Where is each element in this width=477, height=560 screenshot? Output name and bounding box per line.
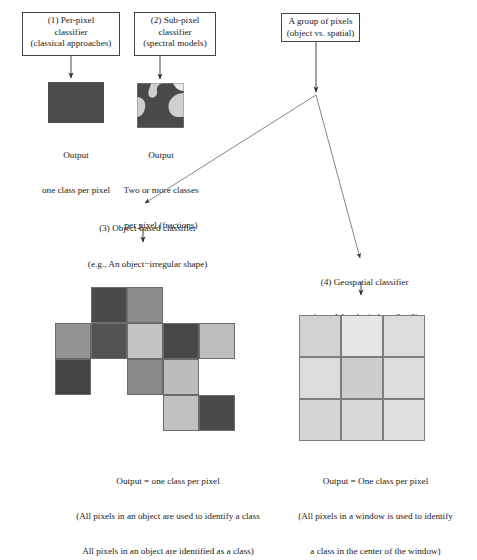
object-grid-cell [91, 323, 127, 359]
node-object-based-label: (3) Object-based classifier [99, 223, 196, 233]
window-grid-cell [383, 357, 425, 399]
node-group-of-pixels[interactable]: A group of pixels (object vs. spatial) [281, 13, 360, 42]
node-geospatial-classifier[interactable]: (4) Geospatial classifier [296, 265, 424, 300]
node-per-pixel-classifier[interactable]: (1) Per-pixel classifier (classical appr… [22, 12, 120, 56]
object-grid-cell [91, 287, 127, 323]
window-grid-cell [299, 399, 341, 441]
object-grid-cell [55, 359, 91, 395]
node-sub-pixel-line1: (2) Sub-pixel [138, 15, 212, 27]
object-grid-cell [55, 323, 91, 359]
window-grid-cell [383, 315, 425, 357]
object-grid-cell [199, 323, 235, 359]
bottom-caption-object: Output = one class per pixel (All pixels… [38, 452, 298, 560]
bottom-window-line1: Output = One class per pixel [283, 476, 468, 488]
window-grid-cell [383, 399, 425, 441]
bottom-window-line3: a class in the center of the window) [283, 546, 468, 558]
object-grid-cell [163, 359, 199, 395]
object-grid-cell [127, 323, 163, 359]
output-sub-pixel-line1: Output [105, 150, 217, 162]
bottom-object-line3: All pixels in an object are identified a… [38, 546, 298, 558]
bottom-object-line2: (All pixels in an object are used to ide… [38, 511, 298, 523]
window-grid-cell [341, 399, 383, 441]
bottom-window-line2: (All pixels in a window is used to ident… [283, 511, 468, 523]
output-swatch-per-pixel [48, 82, 104, 123]
window-grid-cell [341, 315, 383, 357]
node-sub-pixel-line2: classifier [138, 27, 212, 39]
example-object-label: (e.g., An object−irregular shape) [48, 247, 238, 282]
bottom-caption-window: Output = One class per pixel (All pixels… [283, 452, 468, 560]
node-per-pixel-line1: (1) Per-pixel [26, 15, 116, 27]
node-sub-pixel-classifier[interactable]: (2) Sub-pixel classifier (spectral model… [134, 12, 216, 56]
output-swatch-sub-pixel [137, 83, 184, 128]
window-grid-cell [341, 357, 383, 399]
example-object-text: (e.g., An object−irregular shape) [88, 259, 207, 269]
node-geospatial-label: (4) Geospatial classifier [321, 277, 409, 287]
bottom-object-line1: Output = one class per pixel [38, 476, 298, 488]
output-sub-pixel-line2: Two or more classes [105, 185, 217, 197]
window-grid-cell [299, 315, 341, 357]
window-grid-cell [299, 357, 341, 399]
node-group-line2: (object vs. spatial) [285, 28, 356, 40]
object-grid-cell [199, 395, 235, 431]
object-grid-cell [163, 323, 199, 359]
node-per-pixel-line3: (classical approaches) [26, 38, 116, 50]
node-object-based-classifier[interactable]: (3) Object-based classifier [53, 211, 233, 246]
connector-branch-to-geospatial [316, 95, 360, 258]
object-grid-cell [127, 359, 163, 395]
sub-pixel-fraction-map-icon [137, 83, 184, 128]
node-sub-pixel-line3: (spectral models) [138, 38, 212, 50]
node-per-pixel-line2: classifier [26, 27, 116, 39]
object-grid-cell [127, 287, 163, 323]
object-grid-cell [163, 395, 199, 431]
node-group-line1: A group of pixels [285, 16, 356, 28]
